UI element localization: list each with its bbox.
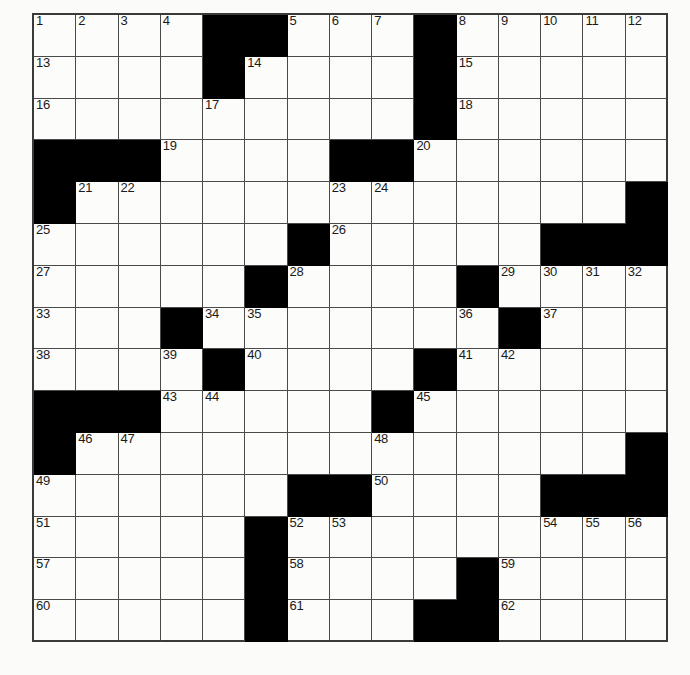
letter-square[interactable]: 31 [583, 266, 625, 308]
letter-square[interactable] [203, 182, 245, 224]
letter-square[interactable] [583, 182, 625, 224]
letter-square[interactable] [245, 391, 287, 433]
letter-square[interactable] [457, 475, 499, 517]
letter-square[interactable]: 57 [34, 558, 76, 600]
letter-square[interactable] [119, 600, 161, 642]
letter-square[interactable] [161, 433, 203, 475]
letter-square[interactable] [499, 99, 541, 141]
letter-square[interactable] [499, 57, 541, 99]
letter-square[interactable] [161, 475, 203, 517]
letter-square[interactable] [499, 140, 541, 182]
letter-square[interactable] [499, 433, 541, 475]
letter-square[interactable] [330, 266, 372, 308]
letter-square[interactable] [626, 57, 668, 99]
letter-square[interactable]: 42 [499, 349, 541, 391]
letter-square[interactable] [626, 349, 668, 391]
letter-square[interactable] [372, 517, 414, 559]
letter-square[interactable] [626, 558, 668, 600]
letter-square[interactable]: 23 [330, 182, 372, 224]
letter-square[interactable] [626, 600, 668, 642]
letter-square[interactable]: 19 [161, 140, 203, 182]
letter-square[interactable] [76, 349, 118, 391]
letter-square[interactable] [372, 558, 414, 600]
letter-square[interactable]: 14 [245, 57, 287, 99]
letter-square[interactable]: 48 [372, 433, 414, 475]
letter-square[interactable]: 24 [372, 182, 414, 224]
letter-square[interactable] [203, 140, 245, 182]
letter-square[interactable] [541, 391, 583, 433]
letter-square[interactable]: 52 [288, 517, 330, 559]
letter-square[interactable] [330, 99, 372, 141]
letter-square[interactable]: 2 [76, 15, 118, 57]
letter-square[interactable] [583, 391, 625, 433]
letter-square[interactable]: 50 [372, 475, 414, 517]
letter-square[interactable] [76, 558, 118, 600]
letter-square[interactable] [457, 224, 499, 266]
letter-square[interactable] [203, 266, 245, 308]
letter-square[interactable] [541, 349, 583, 391]
letter-square[interactable] [119, 57, 161, 99]
letter-square[interactable] [119, 308, 161, 350]
letter-square[interactable] [499, 391, 541, 433]
letter-square[interactable] [414, 308, 456, 350]
letter-square[interactable] [161, 224, 203, 266]
letter-square[interactable] [119, 99, 161, 141]
letter-square[interactable]: 6 [330, 15, 372, 57]
letter-square[interactable]: 3 [119, 15, 161, 57]
letter-square[interactable] [414, 558, 456, 600]
letter-square[interactable] [583, 433, 625, 475]
letter-square[interactable] [203, 224, 245, 266]
letter-square[interactable]: 33 [34, 308, 76, 350]
letter-square[interactable]: 56 [626, 517, 668, 559]
letter-square[interactable] [161, 99, 203, 141]
letter-square[interactable] [288, 308, 330, 350]
letter-square[interactable]: 1 [34, 15, 76, 57]
letter-square[interactable]: 25 [34, 224, 76, 266]
letter-square[interactable]: 55 [583, 517, 625, 559]
letter-square[interactable] [288, 349, 330, 391]
letter-square[interactable] [245, 224, 287, 266]
letter-square[interactable] [245, 99, 287, 141]
letter-square[interactable] [414, 266, 456, 308]
letter-square[interactable] [583, 558, 625, 600]
letter-square[interactable] [76, 57, 118, 99]
letter-square[interactable] [76, 600, 118, 642]
letter-square[interactable] [457, 182, 499, 224]
letter-square[interactable]: 62 [499, 600, 541, 642]
letter-square[interactable]: 47 [119, 433, 161, 475]
letter-square[interactable]: 10 [541, 15, 583, 57]
letter-square[interactable]: 51 [34, 517, 76, 559]
letter-square[interactable]: 40 [245, 349, 287, 391]
letter-square[interactable] [626, 308, 668, 350]
letter-square[interactable] [245, 433, 287, 475]
letter-square[interactable] [76, 517, 118, 559]
letter-square[interactable]: 38 [34, 349, 76, 391]
letter-square[interactable] [414, 517, 456, 559]
letter-square[interactable] [119, 475, 161, 517]
letter-square[interactable] [541, 558, 583, 600]
letter-square[interactable] [372, 99, 414, 141]
letter-square[interactable]: 58 [288, 558, 330, 600]
letter-square[interactable]: 12 [626, 15, 668, 57]
letter-square[interactable]: 26 [330, 224, 372, 266]
letter-square[interactable] [583, 99, 625, 141]
letter-square[interactable]: 45 [414, 391, 456, 433]
letter-square[interactable] [76, 475, 118, 517]
letter-square[interactable]: 20 [414, 140, 456, 182]
letter-square[interactable]: 28 [288, 266, 330, 308]
letter-square[interactable] [161, 600, 203, 642]
letter-square[interactable] [583, 600, 625, 642]
letter-square[interactable] [245, 475, 287, 517]
letter-square[interactable] [119, 349, 161, 391]
letter-square[interactable]: 37 [541, 308, 583, 350]
letter-square[interactable] [330, 433, 372, 475]
letter-square[interactable]: 4 [161, 15, 203, 57]
letter-square[interactable] [414, 224, 456, 266]
letter-square[interactable] [541, 140, 583, 182]
letter-square[interactable] [76, 308, 118, 350]
letter-square[interactable]: 8 [457, 15, 499, 57]
letter-square[interactable]: 46 [76, 433, 118, 475]
letter-square[interactable]: 35 [245, 308, 287, 350]
letter-square[interactable] [245, 140, 287, 182]
letter-square[interactable] [161, 182, 203, 224]
